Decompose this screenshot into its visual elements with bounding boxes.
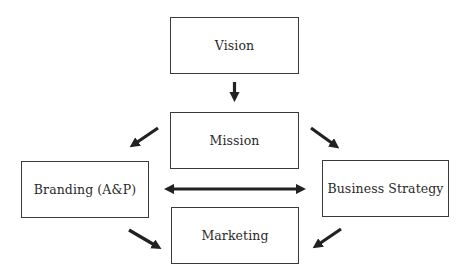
edges-layer: [0, 0, 469, 278]
arrow-business-strategy-to-marketing: [316, 229, 341, 246]
diagram-canvas: Vision Mission Branding (A&P) Business S…: [0, 0, 469, 278]
arrow-branding-to-marketing: [129, 230, 158, 247]
arrow-mission-to-branding: [133, 128, 158, 145]
arrow-mission-to-business-strategy: [311, 128, 336, 146]
